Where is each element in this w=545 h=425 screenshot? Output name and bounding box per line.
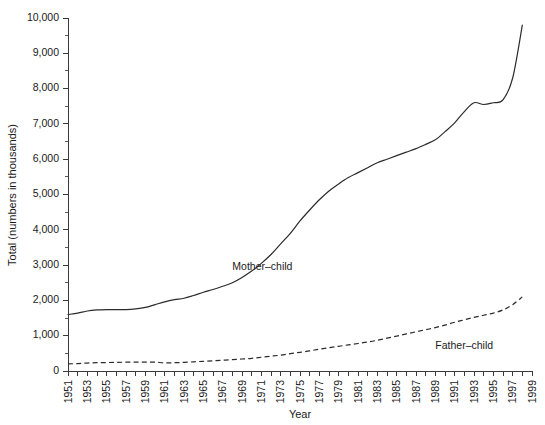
x-tick-label: 1997 — [506, 380, 518, 404]
line-chart: 01,0002,0003,0004,0005,0006,0007,0008,00… — [0, 0, 545, 425]
y-tick-label: 8,000 — [33, 81, 59, 93]
data-series — [68, 25, 522, 364]
series-line-mother-child — [68, 25, 522, 314]
y-tick-label: 2,000 — [33, 293, 59, 305]
series-label-mother-child: Mother–child — [232, 260, 292, 272]
x-tick-label: 1991 — [448, 380, 460, 404]
y-tick-label: 1,000 — [33, 328, 59, 340]
x-tick-label: 1961 — [158, 380, 170, 404]
series-line-father-child — [68, 297, 522, 364]
x-tick-label: 1977 — [313, 380, 325, 404]
x-axis: 1951195319551957195919611963196519671969… — [62, 371, 538, 403]
x-axis-title: Year — [289, 408, 312, 420]
x-tick-label: 1993 — [468, 380, 480, 404]
x-tick-label: 1957 — [120, 380, 132, 404]
y-tick-label: 7,000 — [33, 117, 59, 129]
x-tick-label: 1983 — [371, 380, 383, 404]
x-tick-label: 1989 — [429, 380, 441, 404]
x-tick-label: 1965 — [197, 380, 209, 404]
x-tick-label: 1951 — [62, 380, 74, 404]
x-tick-label: 1959 — [139, 380, 151, 404]
series-annotations: Mother–childFather–child — [232, 260, 493, 351]
x-tick-label: 1953 — [81, 380, 93, 404]
x-tick-label: 1999 — [526, 380, 538, 404]
series-label-father-child: Father–child — [435, 339, 493, 351]
y-tick-label: 9,000 — [33, 46, 59, 58]
y-tick-label: 5,000 — [33, 187, 59, 199]
x-tick-label: 1987 — [410, 380, 422, 404]
x-tick-label: 1967 — [216, 380, 228, 404]
chart-figure: 01,0002,0003,0004,0005,0006,0007,0008,00… — [0, 0, 545, 425]
x-tick-label: 1995 — [487, 380, 499, 404]
x-tick-label: 1975 — [294, 380, 306, 404]
y-tick-label: 0 — [53, 364, 59, 376]
x-tick-label: 1971 — [255, 380, 267, 404]
y-axis: 01,0002,0003,0004,0005,0006,0007,0008,00… — [27, 11, 68, 376]
y-tick-label: 6,000 — [33, 152, 59, 164]
x-tick-label: 1969 — [236, 380, 248, 404]
y-tick-label: 10,000 — [27, 11, 59, 23]
x-tick-label: 1985 — [390, 380, 402, 404]
x-tick-label: 1981 — [352, 380, 364, 404]
y-axis-title: Total (numbers in thousands) — [6, 124, 18, 266]
x-tick-label: 1973 — [274, 380, 286, 404]
y-tick-label: 4,000 — [33, 223, 59, 235]
x-tick-label: 1963 — [178, 380, 190, 404]
x-tick-label: 1955 — [100, 380, 112, 404]
y-tick-label: 3,000 — [33, 258, 59, 270]
x-tick-label: 1979 — [332, 380, 344, 404]
